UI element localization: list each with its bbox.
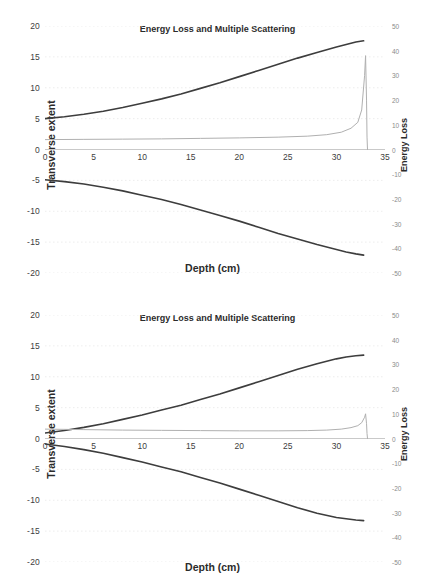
plot-area: 20151050-5-10-15-2050403020100-10-20-30-…	[45, 315, 385, 562]
y-tick-label-left: 10	[30, 372, 40, 382]
y-tick-label-left: 10	[30, 83, 40, 93]
x-tick-label: 35	[380, 441, 389, 451]
plot-canvas	[45, 26, 385, 273]
y-tick-label-left: 15	[30, 52, 40, 62]
y-tick-label-right: 0	[392, 435, 396, 442]
x-tick-label: 5	[91, 441, 96, 451]
y-tick-label-left: 0	[35, 145, 40, 155]
y-tick-label-right: 50	[392, 23, 399, 30]
y-tick-label-left: -15	[27, 237, 40, 247]
y-tick-label-left: 15	[30, 341, 40, 351]
y-tick-label-right: 50	[392, 312, 399, 319]
x-tick-label: 25	[283, 441, 292, 451]
y-tick-label-left: -20	[27, 557, 40, 567]
y-tick-label-right: 30	[392, 72, 399, 79]
y-tick-label-right: -40	[392, 534, 401, 541]
x-tick-label: 10	[137, 441, 146, 451]
x-tick-label: 5	[91, 152, 96, 162]
plot-canvas	[45, 315, 385, 562]
x-tick-label: 10	[137, 152, 146, 162]
y-tick-label-right: -50	[392, 559, 401, 566]
plot-area: 20151050-5-10-15-2050403020100-10-20-30-…	[45, 26, 385, 273]
y-tick-label-right: -10	[392, 171, 401, 178]
y-tick-label-left: 5	[35, 114, 40, 124]
y-tick-label-right: -40	[392, 245, 401, 252]
y-tick-label-left: 20	[30, 310, 40, 320]
x-tick-label: 0	[43, 441, 48, 451]
y-tick-label-right: -50	[392, 270, 401, 277]
y-tick-label-right: 40	[392, 336, 399, 343]
figure-page: Energy Loss and Multiple Scattering Tran…	[0, 0, 425, 578]
y-tick-label-right: -30	[392, 509, 401, 516]
x-tick-label: 0	[43, 152, 48, 162]
y-tick-label-left: -20	[27, 268, 40, 278]
y-tick-label-left: -15	[27, 526, 40, 536]
y-tick-label-right: -30	[392, 220, 401, 227]
y-tick-label-left: -10	[27, 206, 40, 216]
y-tick-label-left: -10	[27, 495, 40, 505]
y-tick-label-right: -20	[392, 195, 401, 202]
y-tick-label-right: 10	[392, 121, 399, 128]
chart-top: Energy Loss and Multiple Scattering Tran…	[0, 0, 425, 289]
y-axis-title-right: Energy Loss	[399, 117, 409, 171]
y-tick-label-right: -10	[392, 460, 401, 467]
y-axis-title-right: Energy Loss	[399, 406, 409, 460]
y-tick-label-right: 40	[392, 47, 399, 54]
y-tick-label-right: 20	[392, 97, 399, 104]
x-tick-label: 25	[283, 152, 292, 162]
y-tick-label-right: 10	[392, 410, 399, 417]
x-tick-label: 30	[332, 152, 341, 162]
y-tick-label-left: 5	[35, 403, 40, 413]
y-tick-label-left: -5	[32, 464, 40, 474]
y-tick-label-right: 30	[392, 361, 399, 368]
x-tick-label: 20	[235, 152, 244, 162]
x-tick-label: 15	[186, 441, 195, 451]
y-tick-label-left: 0	[35, 434, 40, 444]
x-tick-label: 30	[332, 441, 341, 451]
x-tick-label: 20	[235, 441, 244, 451]
x-axis-title: Depth (cm)	[0, 561, 425, 573]
x-tick-label: 35	[380, 152, 389, 162]
y-tick-label-right: 0	[392, 146, 396, 153]
chart-bottom: Energy Loss and Multiple Scattering Tran…	[0, 289, 425, 578]
y-tick-label-right: -20	[392, 484, 401, 491]
x-tick-label: 15	[186, 152, 195, 162]
y-tick-label-left: 20	[30, 21, 40, 31]
y-tick-label-left: -5	[32, 175, 40, 185]
y-tick-label-right: 20	[392, 386, 399, 393]
